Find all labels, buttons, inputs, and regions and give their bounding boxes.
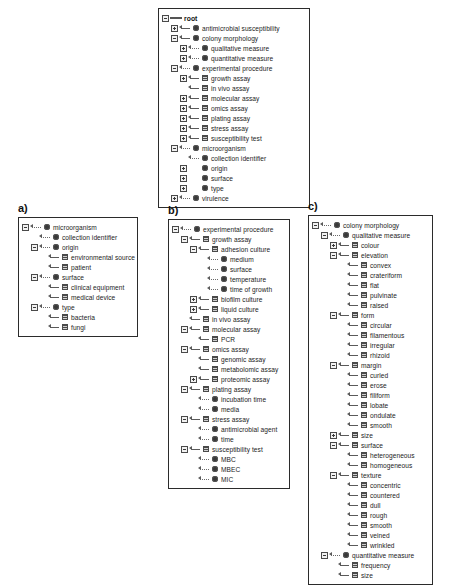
tree-node[interactable]: margin xyxy=(312,360,429,370)
expand-icon[interactable] xyxy=(180,175,187,182)
collapse-icon[interactable] xyxy=(31,274,38,281)
tree-node[interactable]: quantitative measure xyxy=(162,53,306,63)
tree-node[interactable]: type xyxy=(162,183,306,193)
expand-icon[interactable] xyxy=(180,55,187,62)
tree-node[interactable]: incubation time xyxy=(172,394,286,404)
tree-node[interactable]: type xyxy=(22,302,134,312)
tree-node[interactable]: surface xyxy=(22,272,134,282)
expand-icon[interactable] xyxy=(330,242,337,249)
tree-node[interactable]: omics assay xyxy=(162,103,306,113)
tree-node[interactable]: susceptibility test xyxy=(162,133,306,143)
collapse-icon[interactable] xyxy=(330,442,337,449)
expand-icon[interactable] xyxy=(180,105,187,112)
tree-node[interactable]: fungi xyxy=(22,322,134,332)
tree-node[interactable]: PCR xyxy=(172,334,286,344)
collapse-icon[interactable] xyxy=(181,446,188,453)
tree-node[interactable]: circular xyxy=(312,320,429,330)
tree-node[interactable]: surface xyxy=(312,440,429,450)
collapse-icon[interactable] xyxy=(330,252,337,259)
expand-icon[interactable] xyxy=(180,45,187,52)
tree-node[interactable]: rhizoid xyxy=(312,350,429,360)
collapse-icon[interactable] xyxy=(181,236,188,243)
tree-node[interactable]: size xyxy=(312,430,429,440)
tree-node[interactable]: adhesion culture xyxy=(172,244,286,254)
tree-node[interactable]: concentric xyxy=(312,480,429,490)
tree-node[interactable]: plating assay xyxy=(172,384,286,394)
expand-icon[interactable] xyxy=(180,185,187,192)
expand-icon[interactable] xyxy=(180,135,187,142)
tree-node[interactable]: microorganism xyxy=(162,143,306,153)
tree-node[interactable]: liquid culture xyxy=(172,304,286,314)
tree-node[interactable]: in vivo assay xyxy=(172,314,286,324)
tree-node[interactable]: curled xyxy=(312,370,429,380)
tree-node[interactable]: omics assay xyxy=(172,344,286,354)
expand-icon[interactable] xyxy=(180,75,187,82)
tree-node[interactable]: pulvinate xyxy=(312,290,429,300)
expand-icon[interactable] xyxy=(180,95,187,102)
expand-icon[interactable] xyxy=(180,115,187,122)
expand-icon[interactable] xyxy=(171,195,178,202)
tree-node[interactable]: erose xyxy=(312,380,429,390)
tree-node[interactable]: colour xyxy=(312,240,429,250)
tree-node[interactable]: filiform xyxy=(312,390,429,400)
tree-node[interactable]: surface xyxy=(172,264,286,274)
tree-node[interactable]: medical device xyxy=(22,292,134,302)
expand-icon[interactable] xyxy=(171,25,178,32)
collapse-icon[interactable] xyxy=(22,224,29,231)
tree-node[interactable]: convex xyxy=(312,260,429,270)
tree-node[interactable]: antimicrobial agent xyxy=(172,424,286,434)
tree-node[interactable]: colony morphology xyxy=(312,220,429,230)
tree-node[interactable]: temperature xyxy=(172,274,286,284)
tree-node[interactable]: growth assay xyxy=(162,73,306,83)
tree-node[interactable]: irregular xyxy=(312,340,429,350)
tree-node[interactable]: media xyxy=(172,404,286,414)
tree-node[interactable]: rough xyxy=(312,510,429,520)
tree-node[interactable]: collection identifier xyxy=(162,153,306,163)
tree-node[interactable]: molecular assay xyxy=(172,324,286,334)
tree-node[interactable]: wrinkled xyxy=(312,540,429,550)
tree-node[interactable]: bacteria xyxy=(22,312,134,322)
tree-node[interactable]: medium xyxy=(172,254,286,264)
collapse-icon[interactable] xyxy=(181,326,188,333)
tree-node[interactable]: clinical equipment xyxy=(22,282,134,292)
tree-node[interactable]: frequency xyxy=(312,560,429,570)
collapse-icon[interactable] xyxy=(162,15,169,22)
tree-node[interactable]: growth assay xyxy=(172,234,286,244)
tree-node[interactable]: origin xyxy=(162,163,306,173)
tree-node[interactable]: experimental procedure xyxy=(172,224,286,234)
collapse-icon[interactable] xyxy=(330,472,337,479)
tree-node[interactable]: molecular assay xyxy=(162,93,306,103)
collapse-icon[interactable] xyxy=(171,35,178,42)
collapse-icon[interactable] xyxy=(171,145,178,152)
collapse-icon[interactable] xyxy=(31,244,38,251)
tree-node[interactable]: virulence xyxy=(162,193,306,203)
collapse-icon[interactable] xyxy=(330,312,337,319)
tree-node[interactable]: smooth xyxy=(312,520,429,530)
tree-node[interactable]: qualitative measure xyxy=(312,230,429,240)
tree-node[interactable]: plating assay xyxy=(162,113,306,123)
expand-icon[interactable] xyxy=(190,306,197,313)
tree-node[interactable]: microorganism xyxy=(22,222,134,232)
tree-node[interactable]: patient xyxy=(22,262,134,272)
tree-node[interactable]: collection identifier xyxy=(22,232,134,242)
tree-node[interactable]: countered xyxy=(312,490,429,500)
expand-icon[interactable] xyxy=(330,432,337,439)
tree-node[interactable]: experimental procedure xyxy=(162,63,306,73)
tree-node[interactable]: biofilm culture xyxy=(172,294,286,304)
tree-node[interactable]: time xyxy=(172,434,286,444)
tree-node[interactable]: quantitative measure xyxy=(312,550,429,560)
collapse-icon[interactable] xyxy=(172,226,179,233)
collapse-icon[interactable] xyxy=(321,552,328,559)
tree-node[interactable]: ondulate xyxy=(312,410,429,420)
tree-node[interactable]: heterogeneous xyxy=(312,450,429,460)
expand-icon[interactable] xyxy=(180,165,187,172)
collapse-icon[interactable] xyxy=(31,304,38,311)
collapse-icon[interactable] xyxy=(321,232,328,239)
tree-node[interactable]: size xyxy=(312,570,429,580)
tree-node[interactable]: in vivo assay xyxy=(162,83,306,93)
tree-node[interactable]: lobate xyxy=(312,400,429,410)
tree-node[interactable]: dull xyxy=(312,500,429,510)
tree-node[interactable]: proteomic assay xyxy=(172,374,286,384)
tree-node[interactable]: MBC xyxy=(172,454,286,464)
collapse-icon[interactable] xyxy=(312,222,319,229)
